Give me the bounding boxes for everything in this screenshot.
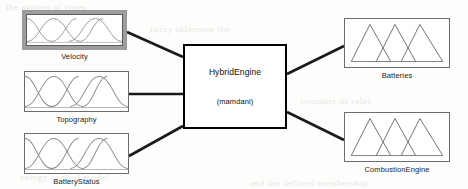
fis-engine-block[interactable]: HybridEngine (mamdani) xyxy=(183,44,287,129)
membership-plot-topography xyxy=(24,71,129,112)
wire-velocity-to-engine xyxy=(127,32,183,57)
input-label-batterystatus: BatteryStatus xyxy=(53,177,99,186)
wire-engine-to-combustionengine xyxy=(287,112,344,140)
wire-batterystatus-to-engine xyxy=(129,126,183,156)
output-label-batteries: Batteries xyxy=(382,71,413,80)
fis-diagram-canvas: the system of types fuzzy inference the … xyxy=(0,0,468,189)
input-label-topography: Topography xyxy=(56,115,96,124)
input-node-batterystatus[interactable]: BatteryStatus xyxy=(24,133,129,174)
input-node-topography[interactable]: Topography xyxy=(24,71,129,112)
membership-plot-batteries xyxy=(344,18,450,68)
input-label-velocity: Velocity xyxy=(61,52,88,61)
output-node-batteries[interactable]: Batteries xyxy=(344,18,450,68)
engine-name: HybridEngine xyxy=(209,67,261,77)
membership-plot-combustionengine xyxy=(344,112,450,162)
membership-plot-velocity xyxy=(26,14,123,46)
wire-engine-to-batteries xyxy=(287,46,344,74)
output-node-combustionengine[interactable]: CombustionEngine xyxy=(344,112,450,162)
engine-inference-type: (mamdani) xyxy=(217,97,254,106)
output-label-combustionengine: CombustionEngine xyxy=(365,165,430,174)
membership-plot-batterystatus xyxy=(24,133,129,174)
input-node-velocity[interactable]: Velocity xyxy=(22,10,127,50)
